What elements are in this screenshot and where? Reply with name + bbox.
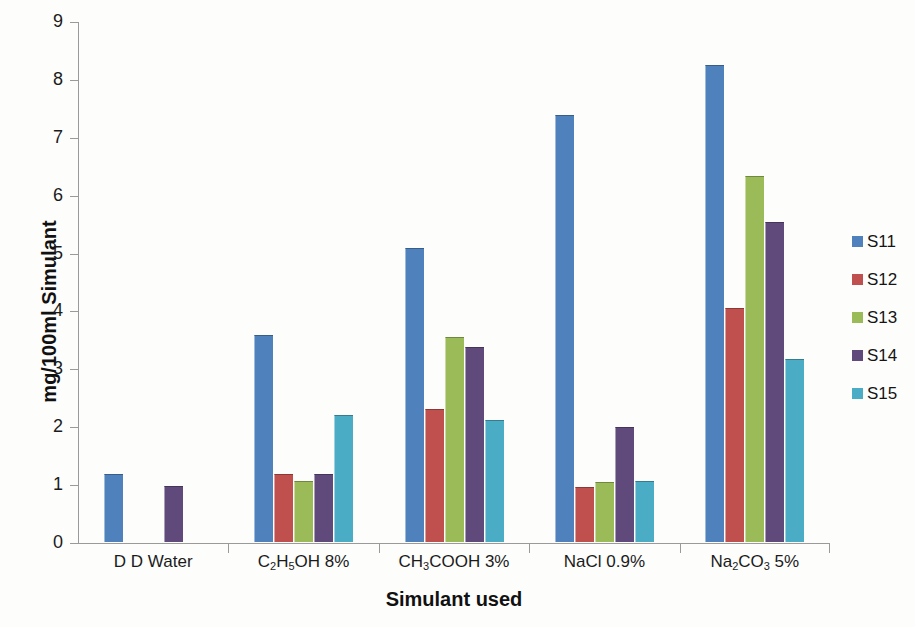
category-separator-tick [379, 543, 380, 553]
y-axis-tick-label: 9 [53, 11, 63, 32]
y-axis-tick: 2 [70, 427, 78, 428]
plot-area: 0123456789 [78, 22, 830, 543]
legend-label: S13 [867, 309, 897, 326]
x-axis-category-label: Na2CO3 5% [710, 552, 799, 572]
bar-s11-1 [104, 474, 123, 542]
y-axis-tick: 3 [70, 369, 78, 370]
bar-chart-figure: mg/100ml Simulant 0123456789 D D WaterC2… [0, 0, 915, 627]
y-axis-tick: 7 [70, 138, 78, 139]
bar-s15-5 [785, 359, 804, 542]
bar-s15-4 [635, 481, 654, 542]
y-axis-tick-label: 7 [53, 127, 63, 148]
bar-s14-3 [465, 347, 484, 542]
bar-s11-3 [405, 248, 424, 542]
x-axis-category-label: C2H5OH 8% [258, 552, 350, 572]
category-separator-tick [529, 543, 530, 553]
bar-s12-5 [725, 308, 744, 542]
y-axis-tick: 8 [70, 80, 78, 81]
bar-s14-5 [765, 222, 784, 542]
bar-s12-2 [274, 474, 293, 542]
bar-s15-2 [334, 415, 353, 542]
x-axis-category-label: NaCl 0.9% [564, 552, 645, 572]
bar-s13-5 [745, 176, 764, 542]
legend-swatch-icon [852, 236, 863, 247]
legend-label: S14 [867, 347, 897, 364]
y-axis-tick-label: 8 [53, 69, 63, 90]
bar-s13-4 [595, 482, 614, 542]
y-axis-tick-label: 0 [53, 532, 63, 553]
bar-s13-3 [445, 337, 464, 543]
y-axis-tick-label: 5 [53, 243, 63, 264]
bar-s12-3 [425, 409, 444, 542]
bar-s15-3 [485, 420, 504, 542]
bar-s13-2 [294, 481, 313, 542]
legend-label: S11 [867, 233, 896, 250]
bar-s14-1 [164, 486, 183, 542]
category-separator-tick [228, 543, 229, 553]
legend-swatch-icon [852, 350, 863, 361]
y-axis-tick-label: 3 [53, 358, 63, 379]
y-axis-tick-label: 6 [53, 185, 63, 206]
x-axis-category-label: D D Water [114, 552, 193, 572]
y-axis-tick-label: 2 [53, 416, 63, 437]
bar-s11-5 [705, 65, 724, 542]
y-axis-tick: 9 [70, 22, 78, 23]
y-axis-tick-label: 1 [53, 474, 63, 495]
bar-s12-4 [575, 487, 594, 542]
x-axis-line [78, 543, 830, 544]
x-axis-category-label: CH3COOH 3% [399, 552, 510, 572]
legend-swatch-icon [852, 388, 863, 399]
y-axis-tick: 0 [70, 543, 78, 544]
legend-swatch-icon [852, 274, 863, 285]
legend-swatch-icon [852, 312, 863, 323]
y-axis-tick: 1 [70, 485, 78, 486]
chart-legend: S11S12S13S14S15 [852, 222, 897, 412]
legend-item-s12[interactable]: S12 [852, 260, 897, 298]
y-axis-line [78, 22, 79, 544]
y-axis-tick-label: 4 [53, 300, 63, 321]
x-axis-title: Simulant used [78, 588, 830, 611]
bar-s11-2 [254, 335, 273, 542]
y-axis-tick: 4 [70, 311, 78, 312]
legend-item-s13[interactable]: S13 [852, 298, 897, 336]
legend-item-s15[interactable]: S15 [852, 374, 897, 412]
legend-item-s11[interactable]: S11 [852, 222, 897, 260]
bar-s14-4 [615, 427, 634, 542]
y-axis-tick: 6 [70, 196, 78, 197]
category-separator-tick [680, 543, 681, 553]
y-axis-tick: 5 [70, 254, 78, 255]
legend-item-s14[interactable]: S14 [852, 336, 897, 374]
legend-label: S15 [867, 385, 897, 402]
legend-label: S12 [867, 271, 897, 288]
bar-s14-2 [314, 474, 333, 542]
bar-s11-4 [555, 115, 574, 542]
category-separator-tick [829, 543, 830, 553]
